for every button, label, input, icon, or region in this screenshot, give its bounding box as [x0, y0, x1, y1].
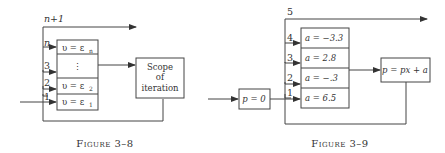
svg-text:2: 2 [89, 85, 93, 92]
cell-3: a = 2.8 [305, 53, 337, 63]
svg-text:of: of [156, 72, 165, 82]
svg-text:υ = ε: υ = ε [62, 81, 85, 91]
cell-2: a = −.3 [305, 73, 338, 83]
cell-4: a = −3.3 [305, 33, 343, 43]
cell-1: a = 6.5 [305, 93, 336, 103]
figure-caption: Figure 3–9 [311, 138, 368, 149]
loop-label: 5 [287, 6, 293, 17]
entry-label-1: 1 [44, 91, 50, 102]
entry-label-4: 4 [287, 32, 293, 43]
svg-text:Scope: Scope [147, 62, 173, 72]
entry-label-2: 2 [287, 72, 293, 83]
update-box-text: p = px + a [382, 65, 428, 75]
svg-text:iteration: iteration [141, 83, 179, 93]
init-box-text: p = 0 [242, 94, 266, 104]
svg-text:υ = ε: υ = ε [62, 43, 85, 53]
svg-text:υ = ε: υ = ε [62, 97, 85, 107]
entry-label-1: 1 [287, 87, 293, 98]
entry-label-3: 3 [44, 60, 50, 71]
figure-caption: Figure 3–8 [76, 138, 133, 149]
cell-ellipsis: ⋮ [73, 62, 82, 72]
svg-text:n: n [89, 47, 93, 54]
flowchart-canvas: n+1 n 3 2 1 υ = ε n ⋮ υ = ε 2 υ = ε 1 Sc… [0, 0, 445, 153]
loop-label: n+1 [44, 13, 64, 24]
entry-label-2: 2 [44, 77, 50, 88]
svg-text:1: 1 [89, 101, 93, 108]
entry-label-3: 3 [287, 52, 293, 63]
entry-label-n: n [44, 37, 50, 48]
